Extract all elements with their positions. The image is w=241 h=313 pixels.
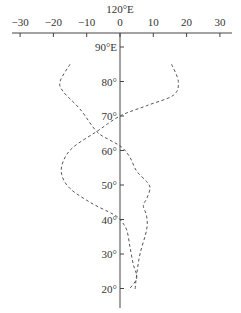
latitude-profile-chart: 120°E −30−20−100102030 90°E80°70°60°50°4… xyxy=(0,0,241,313)
x-tick-label: 10 xyxy=(148,16,160,28)
x-tick-label: 0 xyxy=(117,16,123,28)
x-tick-label: −10 xyxy=(78,16,96,28)
y-tick-label: 70° xyxy=(102,110,117,122)
y-axis: 90°E80°70°60°50°40°30°20° xyxy=(95,33,124,308)
y-tick-label: 80° xyxy=(102,76,117,88)
y-tick-label: 30° xyxy=(102,248,117,260)
x-tick-label: 20 xyxy=(181,16,193,28)
x-tick-label: −30 xyxy=(11,16,29,28)
x-tick-label: 30 xyxy=(214,16,226,28)
y-tick-label: 60° xyxy=(102,145,117,157)
chart-title: 120°E xyxy=(106,3,134,15)
y-tick-label: 50° xyxy=(102,179,117,191)
plot-area xyxy=(60,64,179,290)
x-axis: −30−20−100102030 xyxy=(11,16,232,37)
y-tick-label: 20° xyxy=(102,283,117,295)
x-tick-label: −20 xyxy=(45,16,63,28)
y-tick-label: 90°E xyxy=(95,41,117,53)
y-tick-label: 40° xyxy=(102,214,117,226)
